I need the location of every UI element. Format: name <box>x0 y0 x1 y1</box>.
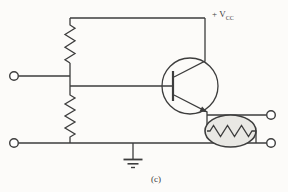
schematic-lines <box>10 18 276 168</box>
bias-resistor-upper <box>65 18 75 63</box>
supply-voltage-label: + VCC <box>212 9 234 21</box>
supply-voltage-subscript: CC <box>226 15 234 21</box>
figure-caption: (c) <box>151 174 161 184</box>
output-terminal-bottom <box>267 139 276 148</box>
input-terminal-bottom <box>10 139 19 148</box>
bias-resistor-lower <box>65 63 75 143</box>
input-terminal-top <box>10 72 19 81</box>
circuit-diagram: + VCC (c) <box>0 0 288 192</box>
supply-voltage-prefix: + V <box>212 9 226 19</box>
output-terminal-top <box>267 111 276 120</box>
collector-wire <box>174 18 205 77</box>
ground-symbol-icon <box>124 143 143 168</box>
schematic-canvas: + VCC (c) <box>0 0 288 192</box>
emitter-wire <box>174 95 207 131</box>
